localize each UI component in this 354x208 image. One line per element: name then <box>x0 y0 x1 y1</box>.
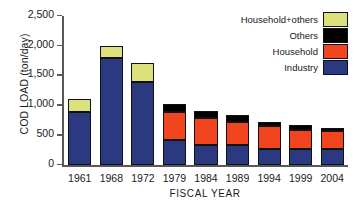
legend-item[interactable]: Household+others <box>203 11 348 27</box>
bar-group[interactable] <box>131 16 154 165</box>
bar-segment-household-plus-others[interactable] <box>68 99 91 113</box>
x-axis-tick-label: 2004 <box>316 172 348 184</box>
bar-segment-household-plus-others[interactable] <box>100 46 123 58</box>
bar-segment-others[interactable] <box>289 125 312 129</box>
bar-segment-household[interactable] <box>163 112 186 140</box>
x-axis-tick-label: 1979 <box>159 172 191 184</box>
y-axis-title: COD LOAD (ton/day) <box>18 4 30 164</box>
bar-stack <box>68 16 91 165</box>
y-axis-tick: 0 <box>57 164 62 165</box>
bar-segment-household[interactable] <box>321 131 344 149</box>
bar-stack <box>131 16 154 165</box>
legend-item[interactable]: Others <box>203 27 348 43</box>
legend-color-swatch <box>323 44 348 59</box>
y-axis-tick: 2,500 <box>57 15 62 16</box>
bar-segment-industry[interactable] <box>289 149 312 166</box>
bar-segment-others[interactable] <box>226 115 249 122</box>
bar-segment-industry[interactable] <box>258 149 281 166</box>
bar-segment-industry[interactable] <box>68 112 91 165</box>
legend-item-label: Household+others <box>241 14 323 25</box>
bar-segment-others[interactable] <box>163 104 186 111</box>
bar-segment-others[interactable] <box>194 111 217 118</box>
y-axis-tick: 1,500 <box>57 74 62 75</box>
bar-segment-industry[interactable] <box>100 58 123 166</box>
chart-legend: Household+othersOthersHouseholdIndustry <box>203 11 348 75</box>
bar-group[interactable] <box>100 16 123 165</box>
bar-segment-household[interactable] <box>194 118 217 145</box>
bar-segment-household[interactable] <box>226 122 249 144</box>
bar-segment-industry[interactable] <box>131 82 154 166</box>
legend-item-label: Others <box>289 30 323 41</box>
y-axis-tick-label: 0 <box>48 157 54 169</box>
legend-color-swatch <box>323 60 348 75</box>
y-axis-tick: 500 <box>57 134 62 135</box>
bar-segment-industry[interactable] <box>226 145 249 166</box>
legend-item-label: Industry <box>284 62 323 73</box>
bar-segment-household[interactable] <box>258 126 281 148</box>
y-axis-tick: 1,000 <box>57 104 62 105</box>
x-axis-tick-label: 1994 <box>253 172 285 184</box>
legend-color-swatch <box>323 12 348 27</box>
y-axis-tick-label: 1,500 <box>28 67 54 79</box>
bar-segment-household[interactable] <box>289 130 312 149</box>
y-axis-tick-label: 2,000 <box>28 38 54 50</box>
y-axis-tick-label: 500 <box>36 127 54 139</box>
legend-item[interactable]: Household <box>203 43 348 59</box>
x-axis-tick-label: 1961 <box>64 172 96 184</box>
bar-segment-household-plus-others[interactable] <box>131 63 154 82</box>
x-axis-tick-label: 1984 <box>190 172 222 184</box>
y-axis-tick-label: 1,000 <box>28 97 54 109</box>
legend-item[interactable]: Industry <box>203 59 348 75</box>
x-axis-tick-label: 1968 <box>96 172 128 184</box>
x-axis-title: FISCAL YEAR <box>62 188 348 199</box>
x-axis-line <box>62 165 348 167</box>
bar-stack <box>163 16 186 165</box>
y-axis-tick-label: 2,500 <box>28 8 54 20</box>
legend-item-label: Household <box>273 46 323 57</box>
bar-group[interactable] <box>163 16 186 165</box>
y-axis-tick: 2,000 <box>57 45 62 46</box>
bar-segment-industry[interactable] <box>194 145 217 166</box>
bar-segment-others[interactable] <box>321 128 344 131</box>
bar-segment-others[interactable] <box>258 122 281 127</box>
x-axis-tick-label: 1999 <box>285 172 317 184</box>
bar-stack <box>100 16 123 165</box>
legend-color-swatch <box>323 28 348 43</box>
bar-segment-industry[interactable] <box>163 140 186 166</box>
x-axis-tick-label: 1972 <box>127 172 159 184</box>
bar-segment-industry[interactable] <box>321 149 344 165</box>
x-axis-tick-label: 1989 <box>222 172 254 184</box>
bar-group[interactable] <box>68 16 91 165</box>
cod-load-stacked-bar-chart: COD LOAD (ton/day) 05001,0001,5002,0002,… <box>0 0 354 208</box>
